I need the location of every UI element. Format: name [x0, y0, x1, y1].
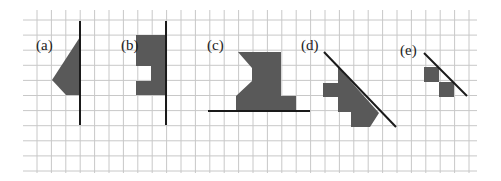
figure-label: (e): [400, 42, 417, 59]
figure-label: (c): [207, 37, 224, 54]
figure-c: (c): [207, 37, 310, 111]
shaded-shape: [136, 35, 166, 95]
figure-b: (b): [121, 21, 166, 125]
figure-a: (a): [36, 21, 80, 125]
shaded-shape: [424, 67, 439, 82]
reflection-diagram: (a)(b)(c)(d)(e): [0, 0, 501, 181]
figure-label: (d): [301, 37, 319, 54]
figure-label: (b): [121, 37, 139, 54]
shaded-shape: [236, 52, 296, 111]
shaded-shape: [323, 67, 379, 127]
figure-label: (a): [36, 37, 53, 54]
diagram-canvas: (a)(b)(c)(d)(e): [0, 0, 501, 181]
shaded-shape: [439, 82, 454, 97]
